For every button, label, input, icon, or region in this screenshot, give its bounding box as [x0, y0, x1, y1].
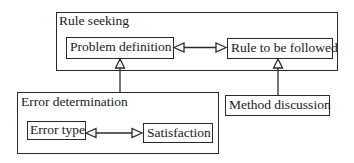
node-satisfaction: Satisfaction — [143, 123, 213, 143]
node-method-discussion: Method discussion — [225, 95, 330, 116]
group-title-rule-seeking: Rule seeking — [59, 14, 129, 28]
node-rule-to-be-followed: Rule to be followed — [227, 38, 333, 59]
group-title-error-determination: Error determination — [21, 95, 128, 109]
node-error-type: Error type — [27, 121, 86, 140]
node-problem-definition: Problem definition — [66, 37, 174, 59]
